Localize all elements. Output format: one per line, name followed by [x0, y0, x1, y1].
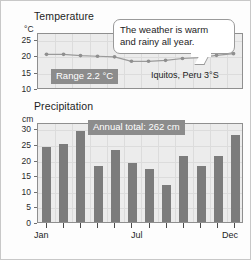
precipitation-axis-unit: cm	[22, 114, 33, 124]
precipitation-y-tick-label: 10	[15, 187, 31, 197]
temperature-data-point	[113, 55, 117, 59]
gridline	[72, 124, 73, 222]
x-axis-label-jan: Jan	[34, 230, 49, 240]
gridline	[158, 124, 159, 222]
temperature-chart-title: Temperature	[34, 10, 94, 22]
x-axis-tick	[97, 223, 98, 228]
x-axis-tick	[234, 223, 235, 228]
temperature-data-point	[147, 59, 151, 63]
precipitation-bar	[197, 166, 206, 222]
precipitation-bar	[42, 147, 51, 222]
precipitation-bar	[231, 135, 240, 223]
annual-total-badge: Annual total: 262 cm	[88, 120, 185, 135]
temperature-data-point	[181, 57, 185, 61]
callout-tail-cover	[191, 51, 211, 57]
gridline	[141, 124, 142, 222]
temperature-data-point	[164, 58, 168, 62]
precipitation-bar	[179, 156, 188, 222]
temperature-data-point	[96, 54, 100, 58]
gridline	[193, 124, 194, 222]
x-axis-tick	[114, 223, 115, 228]
precipitation-y-tick-label: 15	[15, 171, 31, 181]
gridline	[210, 124, 211, 222]
gridline	[175, 124, 176, 222]
gridline	[38, 208, 242, 209]
precipitation-bar	[128, 163, 137, 222]
temperature-y-tick-label: 10	[15, 84, 31, 94]
gridline	[124, 124, 125, 222]
precipitation-y-tick-label: 0	[15, 218, 31, 228]
x-axis-tick	[200, 223, 201, 228]
x-axis-tick	[166, 223, 167, 228]
temperature-y-tick-label: 25	[15, 35, 31, 45]
gridline	[38, 146, 242, 147]
precipitation-y-tick-label: 25	[15, 140, 31, 150]
temperature-y-tick-mark	[34, 89, 37, 90]
precipitation-bar	[94, 166, 103, 222]
precipitation-y-tick-label: 30	[15, 124, 31, 134]
gridline	[38, 177, 242, 178]
precipitation-bar	[111, 150, 120, 222]
temperature-data-point	[215, 53, 219, 57]
precipitation-bar	[214, 156, 223, 222]
temperature-range-badge: Range 2.2 °C	[51, 69, 118, 84]
temperature-data-point	[45, 53, 49, 57]
gridline	[227, 124, 228, 222]
x-axis-tick	[149, 223, 150, 228]
temperature-data-point	[62, 53, 66, 57]
gridline	[55, 124, 56, 222]
temperature-y-tick-label: 20	[15, 51, 31, 61]
climate-chart-figure: Temperature °C 25201510 Range 2.2 °C Iqu…	[0, 0, 251, 260]
x-axis-tick	[217, 223, 218, 228]
x-axis-ticks	[37, 223, 243, 229]
precipitation-bar	[76, 131, 85, 222]
x-axis-tick	[131, 223, 132, 228]
callout-line-2: and rainy all year.	[120, 36, 228, 48]
x-axis-label-jul: Jul	[131, 230, 143, 240]
temperature-data-point	[79, 54, 83, 58]
precipitation-bar	[59, 144, 68, 222]
precipitation-y-tick-label: 20	[15, 156, 31, 166]
temperature-axis-unit: °C	[24, 24, 34, 34]
gridline	[38, 193, 242, 194]
callout-box: The weather is warm and rainy all year.	[113, 19, 235, 54]
callout-line-1: The weather is warm	[120, 24, 228, 36]
x-axis-tick	[80, 223, 81, 228]
precipitation-y-tick-label: 5	[15, 202, 31, 212]
precipitation-bar	[162, 185, 171, 223]
gridline	[38, 162, 242, 163]
precipitation-plot-area	[37, 123, 243, 223]
location-label: Iquitos, Peru 3°S	[151, 70, 219, 80]
temperature-y-tick-label: 15	[15, 68, 31, 78]
temperature-data-point	[130, 59, 134, 63]
precipitation-bar	[145, 169, 154, 222]
x-axis-tick	[183, 223, 184, 228]
gridline	[107, 124, 108, 222]
x-axis-label-dec: Dec	[222, 230, 238, 240]
precipitation-chart-title: Precipitation	[34, 100, 93, 112]
x-axis-tick	[46, 223, 47, 228]
x-axis-tick	[63, 223, 64, 228]
gridline	[90, 124, 91, 222]
